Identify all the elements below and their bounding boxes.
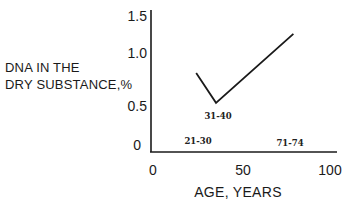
x-tick-0: 0 [149, 162, 157, 178]
x-axis-label: AGE, YEARS [194, 184, 282, 200]
annotation-31-40: 31-40 [204, 111, 231, 121]
annotation-71-74: 71-74 [276, 138, 303, 148]
y-tick-1-5: 1.5 [121, 8, 147, 24]
annotation-21-30: 21-30 [184, 136, 211, 146]
y-tick-0-5: 0.5 [121, 98, 147, 114]
x-tick-100: 100 [318, 162, 341, 178]
y-tick-0: 0 [121, 137, 141, 153]
plot-area [0, 0, 350, 204]
x-tick-50: 50 [235, 162, 251, 178]
y-axis-label-line-1: DNA IN THE [5, 59, 80, 76]
y-tick-1-0: 1.0 [121, 45, 147, 61]
data-line [196, 34, 293, 103]
y-axis-label-line-2: DRY SUBSTANCE,% [5, 76, 132, 93]
